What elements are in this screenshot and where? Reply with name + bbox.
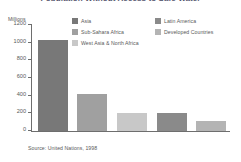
- legend-swatch-icon: [155, 18, 161, 24]
- y-axis-tick: 0: [28, 130, 31, 131]
- y-axis-tick: 600: [28, 77, 31, 78]
- y-axis-tick-label: 200: [17, 108, 26, 115]
- y-axis-tick: 400: [28, 95, 31, 96]
- bar-sub-sahara-africa: [77, 94, 107, 131]
- legend-swatch-icon: [72, 18, 78, 24]
- bar-asia: [38, 40, 68, 131]
- y-axis-tick-label: 600: [17, 73, 26, 80]
- y-axis-tick-label: 1200: [14, 20, 26, 27]
- legend-item-label: Latin America: [164, 18, 196, 24]
- y-axis-tick: 800: [28, 59, 31, 60]
- legend-item-label: Asia: [81, 18, 91, 24]
- chart-title: Population Without Access to Safe Water: [0, 0, 241, 1]
- y-axis-tick-label: 1000: [14, 38, 26, 45]
- bar-chart-figure: Population Without Access to Safe Water …: [0, 0, 241, 162]
- y-axis-tick-label: 800: [17, 55, 26, 62]
- y-axis-tick-label: 400: [17, 91, 26, 98]
- bar-developed-countries: [196, 121, 226, 131]
- y-axis-tick: 1000: [28, 42, 31, 43]
- bar-series: [32, 25, 230, 131]
- plot-area: 120010008006004002000: [31, 24, 231, 132]
- y-axis-tick: 200: [28, 112, 31, 113]
- y-axis-tick: 1200: [28, 24, 31, 25]
- y-axis-tick-label: 0: [23, 126, 26, 133]
- bar-west-asia-and-north-africa: [117, 113, 147, 131]
- source-note: Source: United Nations, 1998: [28, 145, 97, 151]
- bar-latin-america: [157, 113, 187, 131]
- x-axis-line: [31, 131, 230, 132]
